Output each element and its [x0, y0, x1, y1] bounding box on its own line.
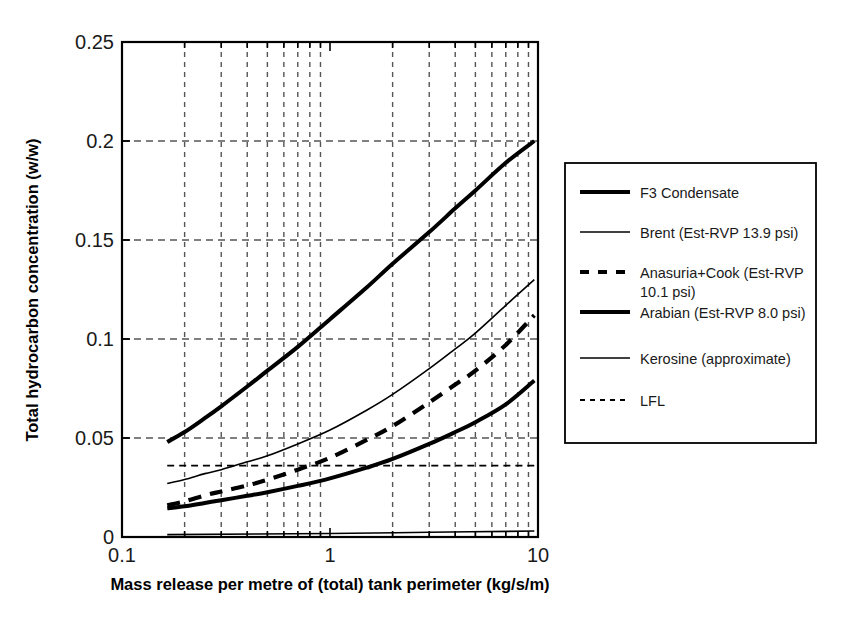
y-axis-title: Total hydrocarbon concentration (w/w) — [23, 138, 41, 441]
chart-figure: 00.050.10.150.20.25 0.1110 Mass release … — [0, 0, 843, 624]
y-tick-label: 0.05 — [75, 427, 114, 449]
legend-label-line2: 10.1 psi) — [640, 284, 696, 300]
x-tick-label: 0.1 — [108, 544, 136, 566]
x-tick-label: 10 — [527, 544, 549, 566]
legend-label: LFL — [640, 393, 665, 409]
legend-label: Anasuria+Cook (Est-RVP — [640, 265, 804, 281]
chart-svg: 00.050.10.150.20.25 0.1110 Mass release … — [0, 0, 843, 624]
legend-label: Brent (Est-RVP 13.9 psi) — [640, 225, 798, 241]
y-tick-label: 0.15 — [75, 229, 114, 251]
y-tick-label: 0.1 — [86, 328, 114, 350]
y-tick-label: 0.25 — [75, 31, 114, 53]
x-tick-label: 1 — [324, 544, 335, 566]
legend-label: Arabian (Est-RVP 8.0 psi) — [640, 305, 805, 321]
legend-label: Kerosine (approximate) — [640, 351, 791, 367]
y-tick-label: 0.2 — [86, 130, 114, 152]
x-axis-title: Mass release per metre of (total) tank p… — [110, 575, 549, 593]
legend-label: F3 Condensate — [640, 185, 739, 201]
